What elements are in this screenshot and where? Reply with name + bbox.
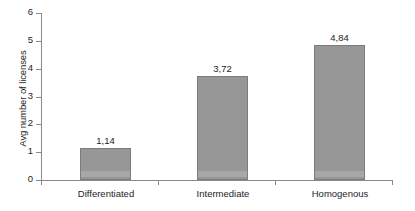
bar-value-label: 3,72 (213, 63, 232, 74)
y-axis-tick-label: 3 (28, 90, 33, 101)
x-axis-tick (392, 181, 393, 185)
bar-value-label: 1,14 (96, 135, 115, 146)
x-axis-line (41, 180, 393, 181)
y-axis-title: Avg number of licenses (17, 24, 28, 174)
x-axis-category-label-1: Intermediate (197, 188, 250, 199)
bar-homogenous[interactable]: 4,84 (314, 45, 365, 180)
x-axis-category-label-2: Homogenous (312, 188, 369, 199)
y-axis-tick-label: 1 (28, 145, 33, 156)
x-axis-category-label-0: Differentiated (78, 188, 134, 199)
y-axis-tick-label: 6 (28, 6, 33, 17)
bar-intermediate[interactable]: 3,72 (197, 76, 248, 180)
y-axis-tick-label: 2 (28, 117, 33, 128)
bar-value-label: 4,84 (330, 32, 349, 43)
y-axis-tick-label: 0 (28, 173, 33, 184)
x-axis-tick (41, 181, 42, 185)
plot-area: 1,14 3,72 4,84 (41, 13, 393, 180)
bar-differentiated[interactable]: 1,14 (80, 148, 131, 180)
x-axis-tick (158, 181, 159, 185)
x-axis-tick (275, 181, 276, 185)
y-axis-tick-label: 4 (28, 62, 33, 73)
y-axis-tick-label: 5 (28, 34, 33, 45)
bar-chart-figure: Avg number of licenses 0123456 1,14 3,72… (0, 0, 415, 211)
